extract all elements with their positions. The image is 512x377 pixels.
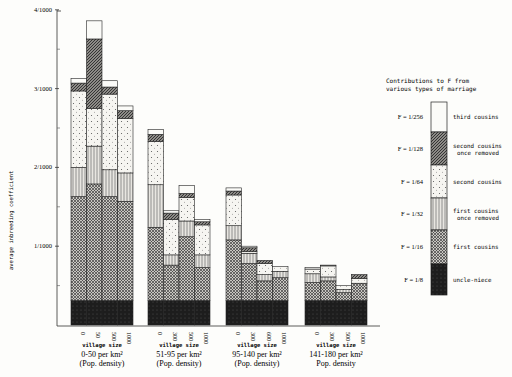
bar-segment [118,201,134,300]
bar-segment [87,146,103,184]
bar-segment [226,191,242,195]
stacked-bar [321,265,337,325]
y-axis: 1/10002/10003/10004/1000 [34,6,61,326]
bar-segment [305,269,321,274]
bar-segment [195,222,211,225]
bar-segment [102,94,118,170]
bar-segment [336,293,352,301]
bar-segment [257,275,273,281]
stacked-bar [242,246,258,325]
legend-f-value: F = 1/8 [404,276,423,283]
legend-label: third cousins [453,114,498,120]
village-size-tick: 1000 [126,332,132,344]
legend-f-value: F = 1/64 [401,178,424,185]
bar-segment [71,91,87,167]
bar-segment [195,225,211,255]
bar-segment [87,21,103,39]
bar-segment [87,184,103,301]
bar-segment [305,274,321,283]
bar-segment [148,301,164,325]
bar-segment [179,237,195,301]
bar-segment [273,267,289,272]
legend-entry: F = 1/256third cousins [398,102,499,132]
bar-segment [257,281,273,301]
village-size-label: village size [237,342,277,349]
stacked-bar [102,81,118,325]
bar-segment [148,130,164,135]
density-sub-label: (Pop. density) [157,359,202,368]
y-tick-label: 2/1000 [34,163,52,170]
bar-segment [87,301,103,325]
bar-segment [102,197,118,301]
village-size-tick: 0 [157,332,163,335]
village-size-tick: 500 [345,332,351,341]
stacked-bar [148,130,164,325]
stacked-bar [118,106,134,325]
bar-segment [242,253,258,263]
legend-entry: F = 1/16first cousins [401,230,498,264]
legend-f-value: F = 1/128 [398,145,423,152]
stacked-bar [195,219,211,325]
bar-segment [242,246,258,248]
bar-segment [179,186,195,194]
bar-segment [321,281,337,301]
village-size-tick: 500 [111,332,117,341]
bar-segment [148,185,164,228]
legend-label: second cousins [453,179,502,185]
bar-segment [87,39,103,108]
legend-label-line2: once removed [457,150,499,156]
bar-segment [71,167,87,196]
bar-segment [195,255,211,268]
legend-f-value: F = 1/256 [398,113,424,120]
bar-segment [242,301,258,325]
village-size-tick: 300 [329,332,335,341]
bar-segment [118,173,134,201]
stacked-bar [336,286,352,325]
density-sub-label: Pop. density [316,359,356,368]
legend-label: uncle-niece [453,277,492,283]
x-axis-labels: 0505001000village size0-50 per km²(Pop. … [80,332,367,368]
legend-entry: F = 1/8uncle-niece [404,264,492,295]
legend-swatch [431,230,447,264]
legend-label: first cousins [453,244,498,250]
bar-segment [71,301,87,325]
bar-segment [179,221,195,237]
legend-f-value: F = 1/32 [401,210,423,217]
y-tick-label: 4/1000 [34,6,52,13]
legend-label: first cousins [453,208,498,214]
bar-segment [336,290,352,293]
density-label: 95-140 per km² [232,350,282,359]
legend: Contributions to F from various types of… [386,77,502,295]
stacked-bar [87,21,103,325]
bar-segment [118,301,134,325]
bar-segment [71,197,87,301]
y-tick-label: 1/1000 [34,242,52,249]
legend-swatch [431,132,447,165]
inbreeding-chart: 1/10002/10003/10004/1000 average inbreed… [0,0,512,377]
bar-segment [164,255,180,265]
bar-segment [195,219,211,221]
bar-segment [305,282,321,300]
legend-swatch [431,102,447,132]
density-label: 51-95 per km² [156,350,202,359]
bar-segment [195,267,211,300]
y-axis-label: average inbreeding coefficient [8,171,15,270]
bar-segment [273,278,289,301]
bar-segment [87,108,103,146]
stacked-bar [179,186,195,325]
bar-segment [321,265,337,266]
bar-group [226,188,288,325]
village-size-tick: 0 [80,332,86,335]
bar-group [71,21,133,325]
legend-title-line1: Contributions to F from [386,77,469,84]
village-size-label: village size [159,342,199,349]
bar-segment [226,195,242,226]
village-size-tick: 0 [314,332,320,335]
bar-segment [71,83,87,91]
bar-segment [102,170,118,197]
bar-segment [273,271,289,277]
bar-segment [336,286,352,290]
density-sub-label: (Pop. density) [235,359,280,368]
stacked-bar [257,260,273,325]
bar-segment [257,301,273,325]
